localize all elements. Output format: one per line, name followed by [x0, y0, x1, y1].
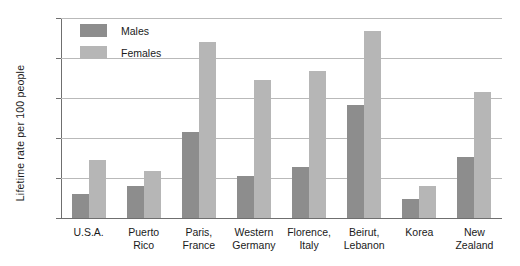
- gridline-10: [61, 138, 502, 139]
- bar-females-2: [199, 42, 216, 218]
- legend: Males Females: [80, 24, 161, 68]
- males-swatch-icon: [80, 24, 107, 37]
- bar-females-5: [364, 31, 381, 218]
- bar-chart: Lifetime rate per 100 people 25 20 15 10…: [0, 0, 520, 266]
- bar-males-0: [72, 194, 89, 218]
- y-axis-title: Lifetime rate per 100 people: [0, 0, 40, 266]
- legend-item-females: Females: [80, 46, 161, 59]
- females-swatch-icon: [80, 46, 107, 59]
- bar-males-4: [292, 167, 309, 218]
- gridline-5: [61, 178, 502, 179]
- bar-females-1: [144, 171, 161, 218]
- bar-males-6: [402, 199, 419, 218]
- bar-males-3: [237, 176, 254, 218]
- bar-females-0: [89, 160, 106, 218]
- bar-females-4: [309, 71, 326, 218]
- bar-females-7: [474, 92, 491, 218]
- legend-item-males: Males: [80, 24, 161, 37]
- bar-females-6: [419, 186, 436, 218]
- gridline-25: [61, 18, 502, 19]
- bar-males-2: [182, 132, 199, 218]
- legend-label-males: Males: [121, 25, 149, 37]
- x-axis-label-7: NewZealand: [441, 226, 508, 252]
- legend-label-females: Females: [121, 47, 161, 59]
- bar-males-7: [457, 157, 474, 218]
- bar-males-1: [127, 186, 144, 218]
- x-axis-baseline: [61, 218, 502, 219]
- bar-males-5: [347, 105, 364, 218]
- gridline-15: [61, 98, 502, 99]
- bar-females-3: [254, 80, 271, 218]
